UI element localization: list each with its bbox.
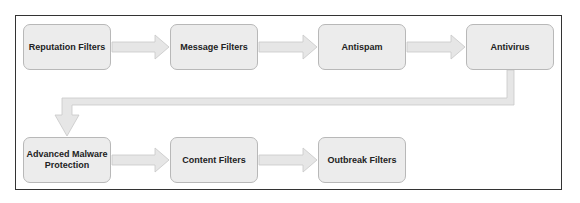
node-label: Advanced Malware Protection xyxy=(26,149,108,171)
node-outbreak-filters: Outbreak Filters xyxy=(318,137,406,183)
node-content-filters: Content Filters xyxy=(170,137,258,183)
node-antivirus: Antivirus xyxy=(466,24,554,70)
node-label: Reputation Filters xyxy=(29,42,106,53)
arrow-content-to-outbreak xyxy=(259,148,317,172)
node-label: Outbreak Filters xyxy=(327,155,396,166)
arrow-antivirus-to-amp xyxy=(55,70,514,136)
node-label: Antivirus xyxy=(490,42,529,53)
node-reputation-filters: Reputation Filters xyxy=(23,24,111,70)
arrow-antispam-to-antivirus xyxy=(407,35,465,59)
arrow-message-to-antispam xyxy=(259,35,317,59)
arrow-reputation-to-message xyxy=(112,35,169,59)
node-label: Message Filters xyxy=(180,42,248,53)
node-antispam: Antispam xyxy=(318,24,406,70)
node-advanced-malware-protection: Advanced Malware Protection xyxy=(23,137,111,183)
node-label: Content Filters xyxy=(182,155,246,166)
arrow-amp-to-content xyxy=(112,148,169,172)
node-label: Antispam xyxy=(341,42,382,53)
node-message-filters: Message Filters xyxy=(170,24,258,70)
